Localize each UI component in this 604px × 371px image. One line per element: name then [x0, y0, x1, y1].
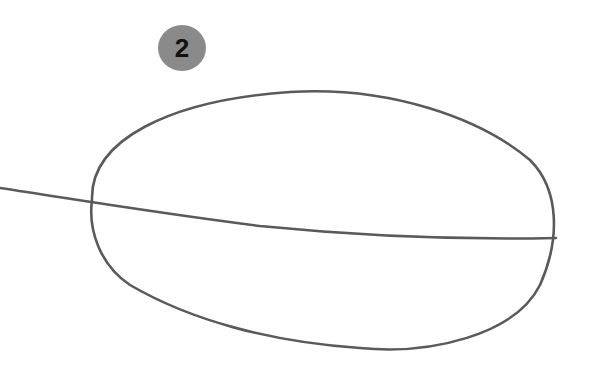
crossing-line	[0, 188, 556, 239]
oval-shape	[91, 91, 554, 349]
sketch-drawing	[0, 0, 604, 371]
